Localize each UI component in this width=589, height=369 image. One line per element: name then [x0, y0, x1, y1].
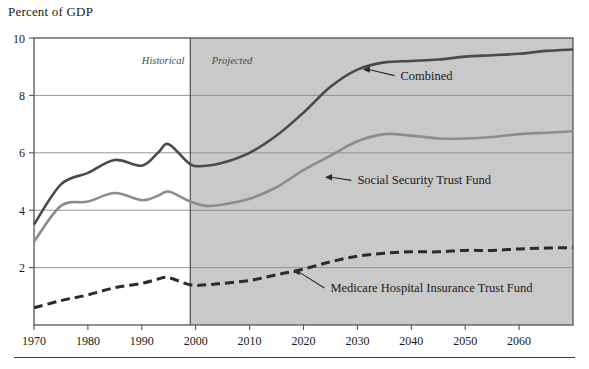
x-tick-label: 2050	[453, 334, 477, 348]
x-tick-label: 1990	[130, 334, 154, 348]
y-tick-label: 4	[19, 204, 25, 218]
chart-annotation: Combined	[401, 69, 454, 83]
y-tick-label: 10	[13, 32, 25, 46]
chart-annotation: Projected	[211, 55, 253, 66]
y-tick-label: 8	[19, 89, 25, 103]
x-tick-label: 1970	[22, 334, 46, 348]
x-tick-label: 1980	[76, 334, 100, 348]
x-tick-label: 2000	[184, 334, 208, 348]
footer-rule	[14, 357, 575, 358]
y-tick-label: 2	[19, 261, 25, 275]
chart-figure: Percent of GDP HistoricalProjectedCombin…	[0, 0, 589, 369]
y-axis-tick-labels: 108642	[13, 32, 25, 276]
chart-annotation: Medicare Hospital Insurance Trust Fund	[330, 281, 533, 295]
chart-annotation: Social Security Trust Fund	[357, 173, 491, 187]
x-tick-label: 2030	[345, 334, 369, 348]
chart-plot-area: HistoricalProjectedCombinedSocial Securi…	[0, 0, 589, 369]
x-axis-tick-labels: 1970198019902000201020202030204020502060	[22, 334, 531, 348]
x-tick-label: 2010	[238, 334, 262, 348]
chart-annotation: Historical	[141, 55, 185, 66]
x-tick-label: 2020	[292, 334, 316, 348]
y-tick-label: 6	[19, 146, 25, 160]
x-tick-label: 2060	[507, 334, 531, 348]
x-tick-label: 2040	[399, 334, 423, 348]
